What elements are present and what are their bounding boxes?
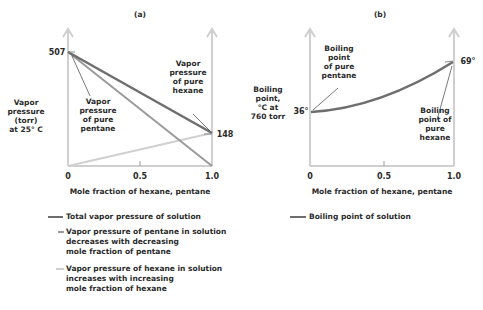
legend-hexane: Vapor pressure of hexane in solution inc… [66, 264, 222, 294]
ylabel-line: point, [244, 94, 292, 103]
xtick-1.0: 1.0 [444, 172, 464, 181]
legend-text: Boiling point of solution [309, 212, 411, 222]
ann-line: point of [414, 115, 456, 124]
legend-text: Total vapor pressure of solution [66, 212, 201, 222]
ylabel-line: °C at [244, 103, 292, 112]
y-value-36: 36° [291, 107, 311, 116]
xtick-0.5: 0.5 [130, 172, 150, 181]
legend-text: Vapor pressure of pentane in solution [66, 227, 226, 237]
legend-total: Total vapor pressure of solution [66, 212, 201, 222]
y-value-148: 148 [215, 130, 235, 139]
ylabel-line: Boiling [244, 85, 292, 94]
ylabel-line: (torr) [2, 116, 50, 125]
panel-a-ylabel: Vapor pressure (torr) at 25° C [2, 98, 50, 134]
legend-text: Vapor pressure of hexane in solution [66, 264, 222, 274]
ann-line: of pure [78, 115, 118, 124]
y-value-69: 69° [458, 57, 478, 66]
legend-boiling: Boiling point of solution [309, 212, 411, 222]
ann-line: pressure [168, 68, 208, 77]
y-value-507: 507 [47, 48, 67, 57]
xtick-1.0: 1.0 [202, 172, 222, 181]
ann-line: Boiling [414, 106, 456, 115]
annotation-pure-hexane: Vapor pressure of pure hexane [168, 59, 208, 95]
panel-b-title: (b) [368, 10, 392, 19]
panel-b-ylabel: Boiling point, °C at 760 torr [244, 85, 292, 121]
ann-line: Boiling [318, 44, 360, 53]
legend-text: mole fraction of pentane [66, 247, 226, 257]
xtick-0.5: 0.5 [374, 172, 394, 181]
ann-line: pure [414, 124, 456, 133]
panel-a-title: (a) [128, 10, 152, 19]
ann-line: pressure [78, 106, 118, 115]
legend-text: increases with increasing [66, 274, 222, 284]
ann-line: pentane [78, 124, 118, 133]
ann-line: hexane [414, 133, 456, 142]
legend-text: decreases with decreasing [66, 237, 226, 247]
ylabel-line: 760 torr [244, 112, 292, 121]
annotation-bp-hexane: Boiling point of pure hexane [414, 106, 456, 142]
panel-b-xlabel: Mole fraction of hexane, pentane [302, 187, 462, 196]
ylabel-line: at 25° C [2, 125, 50, 134]
ann-line: of pure [318, 62, 360, 71]
xtick-0: 0 [304, 172, 316, 181]
legend-pentane: Vapor pressure of pentane in solution de… [66, 227, 226, 257]
ann-line: hexane [168, 86, 208, 95]
ann-line: pentane [318, 71, 360, 80]
ann-line: Vapor [168, 59, 208, 68]
panel-a-xlabel: Mole fraction of hexane, pentane [60, 187, 220, 196]
ann-line: point [318, 53, 360, 62]
legend-text: mole fraction of hexane [66, 284, 222, 294]
ylabel-line: Vapor [2, 98, 50, 107]
annotation-bp-pentane: Boiling point of pure pentane [318, 44, 360, 80]
ann-line: of pure [168, 77, 208, 86]
xtick-0: 0 [62, 172, 74, 181]
ylabel-line: pressure [2, 107, 50, 116]
annotation-pure-pentane: Vapor pressure of pure pentane [78, 97, 118, 133]
ann-line: Vapor [78, 97, 118, 106]
